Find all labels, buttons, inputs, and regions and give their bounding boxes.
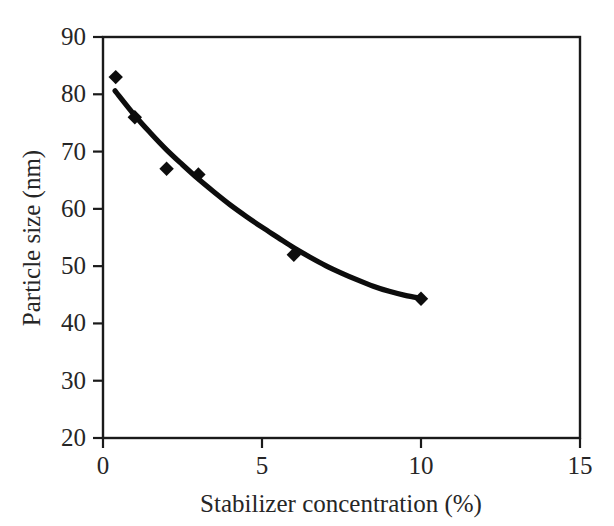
fitted-trend-curve bbox=[115, 91, 421, 298]
x-axis-tick-labels: 051015 bbox=[97, 452, 593, 479]
x-tick-label: 15 bbox=[568, 452, 593, 479]
data-point-marker bbox=[109, 70, 123, 84]
chart-figure: 2030405060708090 051015 Stabilizer conce… bbox=[0, 0, 614, 526]
y-tick-label: 80 bbox=[61, 80, 86, 107]
x-tick-label: 0 bbox=[97, 452, 110, 479]
y-tick-label: 20 bbox=[61, 424, 86, 451]
data-point-markers bbox=[109, 70, 429, 306]
data-point-marker bbox=[191, 167, 205, 181]
data-point-marker bbox=[159, 162, 173, 176]
y-tick-label: 30 bbox=[61, 367, 86, 394]
y-tick-label: 50 bbox=[61, 252, 86, 279]
y-tick-label: 40 bbox=[61, 309, 86, 336]
x-axis-title: Stabilizer concentration (%) bbox=[200, 490, 482, 518]
x-tick-label: 10 bbox=[409, 452, 434, 479]
plot-frame bbox=[103, 37, 580, 438]
y-tick-label: 70 bbox=[61, 138, 86, 165]
x-axis-ticks bbox=[103, 438, 580, 448]
y-axis-ticks bbox=[93, 37, 103, 438]
chart-canvas: 2030405060708090 051015 Stabilizer conce… bbox=[0, 0, 614, 526]
y-axis-tick-labels: 2030405060708090 bbox=[61, 23, 86, 451]
y-axis-title: Particle size (nm) bbox=[18, 150, 46, 326]
y-tick-label: 90 bbox=[61, 23, 86, 50]
x-tick-label: 5 bbox=[256, 452, 269, 479]
y-tick-label: 60 bbox=[61, 195, 86, 222]
data-point-marker bbox=[414, 292, 428, 306]
